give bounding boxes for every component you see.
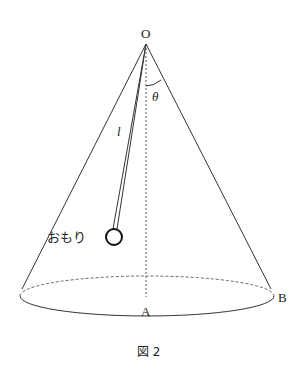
cone-right-edge [146, 44, 271, 289]
figure-caption: 図 2 [137, 345, 160, 359]
label-l: l [117, 124, 121, 139]
theta-arc [146, 80, 161, 86]
label-weight: おもり [47, 230, 86, 245]
base-ellipse-back [20, 276, 274, 296]
label-A: A [141, 304, 151, 319]
label-B: B [278, 290, 287, 305]
cone-left-edge [22, 44, 146, 289]
conical-pendulum-diagram: O θ l おもり A B 図 2 [0, 0, 306, 375]
weight-ball [106, 229, 122, 245]
label-O: O [141, 26, 150, 41]
label-theta: θ [152, 89, 159, 104]
